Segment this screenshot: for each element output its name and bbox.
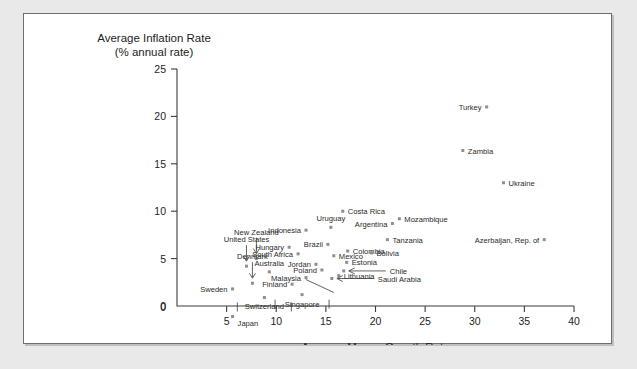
data-point-label: Zambia	[468, 147, 494, 156]
data-point-label: Finland	[262, 280, 287, 289]
y-tick-label: 20	[154, 110, 166, 122]
data-point-label: Brazil	[304, 240, 323, 249]
data-point-label: Bolivia	[377, 249, 400, 258]
data-point-label: Tanzania	[392, 236, 423, 245]
figure-frame: 05101520250510152025303540Average Inflat…	[23, 13, 612, 344]
data-point-label: Turkey	[459, 103, 482, 112]
data-point-label: Saudi Arabia	[378, 275, 422, 284]
data-point-marker	[329, 226, 332, 229]
data-point-marker	[301, 293, 304, 296]
data-point-marker	[245, 265, 248, 268]
data-point-label: Azerbaijan, Rep. of	[475, 236, 540, 245]
data-point-marker	[288, 246, 291, 249]
data-point-label: Japan	[238, 319, 259, 328]
x-tick-label: 25	[419, 315, 431, 327]
chart-canvas: 05101520250510152025303540Average Inflat…	[24, 14, 613, 345]
x-tick-label: 30	[469, 315, 481, 327]
data-point-marker	[231, 287, 234, 290]
data-point-label: Argentina	[355, 220, 388, 229]
x-tick-label: 10	[270, 315, 282, 327]
data-point-marker	[341, 210, 344, 213]
data-point-marker	[231, 315, 234, 318]
data-point-label: Singapore	[285, 300, 320, 309]
data-point-marker	[326, 243, 329, 246]
data-point-label: Mozambique	[404, 215, 447, 224]
data-point-label: Denmark	[237, 252, 268, 261]
data-point-label: Costa Rica	[348, 207, 386, 216]
data-point-label: United States	[224, 235, 270, 244]
x-tick-label: 35	[519, 315, 531, 327]
data-point-label: Estonia	[352, 258, 378, 267]
y-tick-label: 10	[154, 205, 166, 217]
leader-line	[306, 280, 334, 293]
data-point-label: Switzerland	[245, 302, 284, 311]
x-tick-label: 20	[370, 315, 382, 327]
data-point-marker	[305, 229, 308, 232]
x-tick-label: 0	[160, 301, 166, 313]
y-tick-label: 15	[154, 158, 166, 170]
data-point-marker	[370, 251, 373, 254]
data-point-marker	[398, 217, 401, 220]
data-point-marker	[330, 277, 333, 280]
data-point-marker	[391, 222, 394, 225]
data-point-marker	[332, 254, 335, 257]
data-point-label: Ukraine	[509, 179, 535, 188]
data-point-marker	[386, 238, 389, 241]
data-point-marker	[345, 261, 348, 264]
y-axis-title: Average Inflation Rate	[97, 32, 211, 44]
data-point-label: Uruguay	[316, 214, 345, 223]
data-point-marker	[320, 268, 323, 271]
y-axis-subtitle: (% annual rate)	[115, 46, 194, 58]
x-tick-label: 40	[568, 315, 580, 327]
data-point-marker	[543, 238, 546, 241]
y-tick-label: 5	[160, 253, 166, 265]
data-point-marker	[291, 283, 294, 286]
data-point-marker	[263, 296, 266, 299]
scatter-plot: 05101520250510152025303540Average Inflat…	[24, 14, 611, 343]
data-point-marker	[305, 276, 308, 279]
data-point-label: Sweden	[200, 285, 227, 294]
data-point-marker	[502, 181, 505, 184]
y-tick-label: 25	[154, 63, 166, 75]
data-point-marker	[461, 149, 464, 152]
data-point-label: Lithuania	[344, 272, 376, 281]
x-axis-title: Average Money Growth Rate	[301, 341, 449, 345]
data-point-marker	[251, 282, 254, 285]
x-tick-label: 15	[320, 315, 332, 327]
x-tick-label: 5	[224, 315, 230, 327]
data-point-marker	[297, 252, 300, 255]
data-point-marker	[485, 105, 488, 108]
